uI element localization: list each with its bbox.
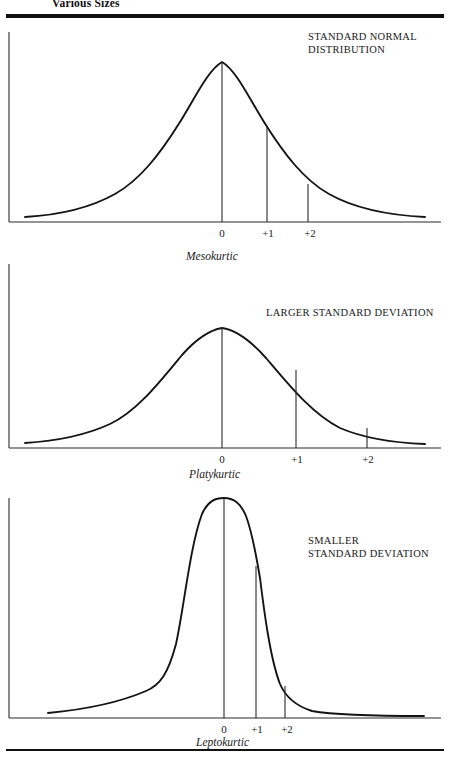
curve-leptokurtic xyxy=(48,498,424,716)
tick-label-0-leptokurtic: 0 xyxy=(221,723,227,735)
tick-label-plus2-platykurtic: +2 xyxy=(362,453,374,465)
panel-platykurtic: 0 +1 +2 Platykurtic LARGER STANDARD DEVI… xyxy=(0,262,450,487)
chart-leptokurtic: 0 +1 +2 xyxy=(0,488,450,750)
panel-leptokurtic: 0 +1 +2 Leptokurtic SMALLER STANDARD DEV… xyxy=(0,488,450,750)
chart-mesokurtic: 0 +1 +2 xyxy=(0,26,450,266)
tick-label-plus2-mesokurtic: +2 xyxy=(304,227,316,239)
caption-leptokurtic: Leptokurtic xyxy=(196,736,249,748)
annotation-leptokurtic: SMALLER STANDARD DEVIATION xyxy=(308,534,429,560)
bottom-rule xyxy=(6,749,444,751)
tick-label-plus2-leptokurtic: +2 xyxy=(281,723,293,735)
tick-label-plus1-mesokurtic: +1 xyxy=(262,227,274,239)
curve-mesokurtic xyxy=(25,62,425,217)
chart-platykurtic: 0 +1 +2 xyxy=(0,262,450,487)
panel-mesokurtic: 0 +1 +2 Mesokurtic STANDARD NORMAL DISTR… xyxy=(0,26,450,266)
tick-label-plus1-platykurtic: +1 xyxy=(291,453,303,465)
tick-label-0-platykurtic: 0 xyxy=(219,453,225,465)
tick-label-0-mesokurtic: 0 xyxy=(219,227,225,239)
caption-platykurtic: Platykurtic xyxy=(189,468,240,480)
annotation-platykurtic: LARGER STANDARD DEVIATION xyxy=(266,306,434,319)
annotation-mesokurtic: STANDARD NORMAL DISTRIBUTION xyxy=(308,30,417,56)
curve-platykurtic xyxy=(25,328,425,444)
top-rule xyxy=(6,14,444,18)
figure-title: Various Sizes xyxy=(52,0,120,9)
caption-mesokurtic: Mesokurtic xyxy=(186,250,238,262)
tick-label-plus1-leptokurtic: +1 xyxy=(251,723,263,735)
